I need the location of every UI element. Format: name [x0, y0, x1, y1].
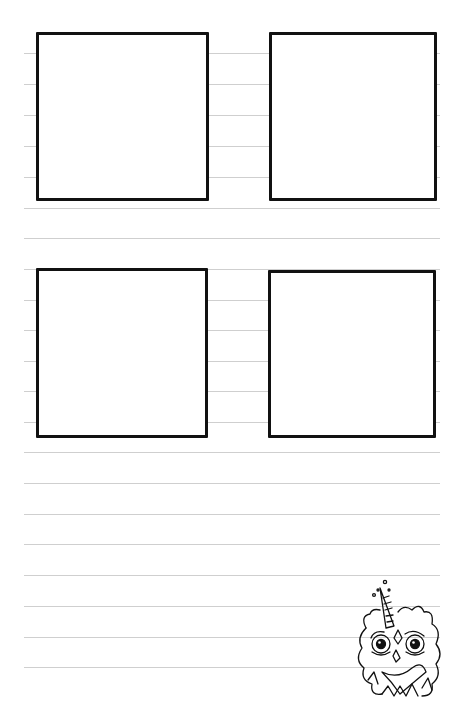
ruled-line	[24, 452, 440, 453]
ruled-line	[24, 208, 440, 209]
unicorn-owl-illustration	[352, 568, 448, 704]
ruled-line	[24, 544, 440, 545]
panel-bottom-right	[268, 270, 436, 438]
ruled-line	[24, 483, 440, 484]
ruled-line	[24, 238, 440, 239]
panel-top-left	[36, 32, 209, 201]
ruled-line	[24, 514, 440, 515]
panel-top-right	[269, 32, 437, 201]
panel-bottom-left	[36, 268, 208, 438]
